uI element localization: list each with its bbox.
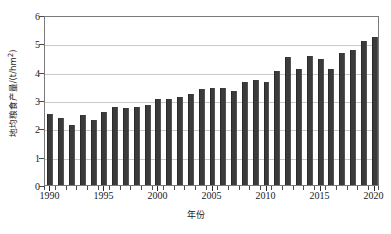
chart-screenshot: 地均粮食产量/(t/hm2) 0123456 19901995200020052…: [0, 0, 391, 234]
bar: [145, 105, 151, 185]
bar: [296, 69, 302, 185]
bar: [264, 82, 270, 185]
bar: [91, 120, 97, 185]
bar: [210, 88, 216, 185]
x-axis-title: 年份: [0, 208, 391, 221]
bar: [285, 57, 291, 185]
bar: [112, 107, 118, 185]
x-axis-tick-label: 2005: [202, 190, 222, 201]
bar: [80, 115, 86, 185]
bar: [350, 50, 356, 185]
plot-area: [44, 16, 379, 186]
bar: [199, 89, 205, 185]
bar: [58, 118, 64, 185]
x-axis-tick-labels: 1990199520002005201020152020: [0, 190, 391, 206]
bar: [155, 99, 161, 185]
bar: [372, 37, 378, 185]
bar: [328, 69, 334, 185]
bar: [123, 108, 129, 185]
bar: [231, 91, 237, 185]
bar: [361, 41, 367, 185]
bar: [166, 99, 172, 185]
x-axis-tick-label: 2015: [310, 190, 330, 201]
x-axis-tick-label: 2020: [364, 190, 384, 201]
bar: [101, 112, 107, 185]
bar: [253, 80, 259, 185]
y-axis-title: 地均粮食产量/(t/hm2): [0, 0, 24, 186]
x-axis-tick-label: 1990: [39, 190, 59, 201]
x-axis-tick-label: 2000: [147, 190, 167, 201]
bar: [47, 114, 53, 185]
bar: [177, 97, 183, 185]
bar: [274, 71, 280, 185]
y-axis-title-text: 地均粮食产量/(t/hm2): [6, 49, 19, 137]
x-axis-tick-label: 2010: [256, 190, 276, 201]
x-axis-tick-label: 1995: [93, 190, 113, 201]
bar: [339, 53, 345, 185]
bar-series: [45, 17, 378, 185]
bar: [134, 107, 140, 185]
bar: [307, 56, 313, 185]
y-axis-title-tail: ): [8, 49, 18, 52]
bar: [318, 59, 324, 185]
bar: [188, 94, 194, 185]
bar: [242, 82, 248, 185]
bar: [220, 88, 226, 185]
bar: [69, 125, 75, 185]
y-axis-title-superscript: 2: [6, 52, 15, 57]
